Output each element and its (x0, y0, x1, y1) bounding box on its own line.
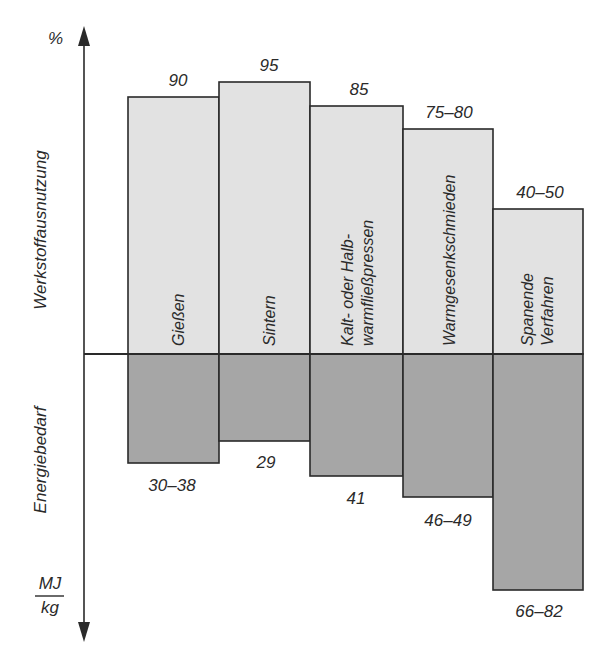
value-label-lower-warmgesenkschmieden: 46–49 (424, 511, 472, 530)
bar-upper-kaltfliesspressen (310, 106, 403, 354)
category-label-warmgesenkschmieden: Warmgesenkschmieden (441, 175, 458, 346)
bar-lower-sintern (219, 354, 310, 441)
bar-lower-spanende-verfahren (493, 354, 583, 590)
category-label-kalt-line1: Kalt- oder Halb- (339, 234, 356, 346)
bottom-axis-title: Energiebedarf (31, 404, 50, 513)
value-label-lower-sintern: 29 (256, 453, 276, 472)
value-label-upper-kaltfliesspressen: 85 (350, 80, 369, 99)
category-label-spanende-line2: Verfahren (539, 276, 556, 346)
arrow-up-icon (78, 26, 90, 46)
value-label-upper-warmgesenkschmieden: 75–80 (425, 103, 473, 122)
value-label-upper-giessen: 90 (169, 71, 188, 90)
value-label-lower-spanende: 66–82 (515, 602, 563, 621)
bar-lower-kaltfliesspressen (310, 354, 403, 476)
bar-upper-spanende-verfahren (493, 209, 583, 354)
value-label-upper-sintern: 95 (260, 56, 279, 75)
axis-labels: % Werkstoffausnutzung Energiebedarf MJ k… (31, 29, 64, 617)
bar-lower-warmgesenkschmieden (403, 354, 493, 497)
bottom-unit-denominator: kg (41, 598, 60, 617)
arrow-down-icon (78, 622, 90, 642)
diverging-bar-chart: 90 95 85 75–80 40–50 30–38 29 41 46–49 6… (0, 0, 608, 662)
value-label-upper-spanende: 40–50 (516, 183, 564, 202)
category-label-kalt-line2: warmfließpressen (359, 220, 376, 346)
category-label-sintern: Sintern (261, 295, 278, 346)
value-label-lower-giessen: 30–38 (148, 476, 196, 495)
lower-bars (128, 354, 583, 590)
top-axis-title: Werkstoffausnutzung (31, 150, 50, 310)
bar-lower-giessen (128, 354, 219, 463)
category-label-giessen: Gießen (170, 293, 187, 346)
vertical-axis (78, 26, 90, 642)
value-label-lower-kaltfliesspressen: 41 (347, 489, 366, 508)
top-unit-label: % (48, 29, 63, 48)
bottom-unit-numerator: MJ (39, 574, 62, 593)
category-label-spanende-line1: Spanende (519, 273, 536, 346)
